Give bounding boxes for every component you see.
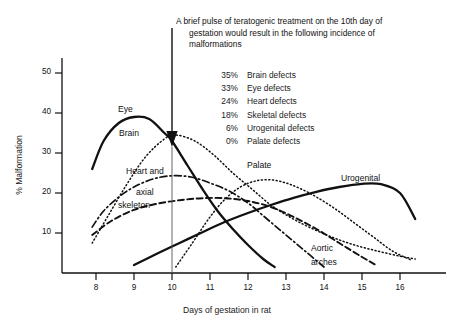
annotation-paragraph: A brief pulse of teratogenic treatment o… xyxy=(176,16,444,51)
defect-percent: 18% xyxy=(208,109,238,122)
curve-label-aortic-line1: Aortic xyxy=(311,243,333,253)
defect-label: Eye defects xyxy=(247,82,291,95)
defect-row: 35%Brain defects xyxy=(208,69,315,82)
x-tick-16: 16 xyxy=(391,283,409,292)
defect-label: Brain defects xyxy=(247,69,296,82)
defect-label: Skeletal defects xyxy=(247,109,306,122)
annotation-line-2: gestation would result in the following … xyxy=(189,28,444,40)
defect-row: 24%Heart defects xyxy=(208,95,315,108)
defect-row: 6%Urogenital defects xyxy=(208,122,315,135)
defect-incidence-table: 35%Brain defects33%Eye defects24%Heart d… xyxy=(208,69,315,148)
x-tick-8: 8 xyxy=(87,283,105,292)
defect-label: Heart defects xyxy=(247,95,297,108)
x-axis-title: Days of gestation in rat xyxy=(0,305,454,315)
y-tick-10: 10 xyxy=(33,227,51,236)
curve-label-eye: Eye xyxy=(118,104,133,114)
defect-row: 18%Skeletal defects xyxy=(208,109,315,122)
defect-percent: 35% xyxy=(208,69,238,82)
annotation-line-3: malformations xyxy=(189,39,444,51)
curve-label-aortic-line2: arches xyxy=(311,257,337,267)
curve-palate xyxy=(176,180,412,267)
defect-label: Palate defects xyxy=(247,135,300,148)
x-tick-13: 13 xyxy=(277,283,295,292)
curve-label-urogenital: Urogenital xyxy=(341,173,380,183)
annotation-line-1: A brief pulse of teratogenic treatment o… xyxy=(176,16,444,28)
defect-row: 33%Eye defects xyxy=(208,82,315,95)
y-tick-30: 30 xyxy=(33,147,51,156)
defect-row: 0%Palate defects xyxy=(208,135,315,148)
y-tick-40: 40 xyxy=(33,107,51,116)
x-tick-14: 14 xyxy=(315,283,333,292)
curve-label-brain: Brain xyxy=(119,128,139,138)
defect-percent: 33% xyxy=(208,82,238,95)
curve-label-palate: Palate xyxy=(247,160,271,170)
curve-label-heart-line1: Heart and xyxy=(126,166,164,176)
x-tick-9: 9 xyxy=(125,283,143,292)
x-tick-10: 10 xyxy=(163,283,181,292)
defect-percent: 6% xyxy=(208,122,238,135)
curve-label-heart-line3: skeleton xyxy=(118,200,150,210)
curve-heart-and-axial-skeleton xyxy=(92,176,324,267)
x-tick-11: 11 xyxy=(201,283,219,292)
y-tick-50: 50 xyxy=(33,67,51,76)
x-tick-15: 15 xyxy=(353,283,371,292)
y-axis-title: % Malformation xyxy=(14,120,24,210)
curve-urogenital xyxy=(134,183,415,265)
y-tick-20: 20 xyxy=(33,187,51,196)
curve-label-heart-line2: axial xyxy=(136,187,154,197)
defect-label: Urogenital defects xyxy=(247,122,315,135)
defect-percent: 24% xyxy=(208,95,238,108)
defect-percent: 0% xyxy=(208,135,238,148)
treatment-pulse-arrow xyxy=(166,28,177,273)
x-tick-12: 12 xyxy=(239,283,257,292)
chart-figure: A brief pulse of teratogenic treatment o… xyxy=(0,0,454,328)
